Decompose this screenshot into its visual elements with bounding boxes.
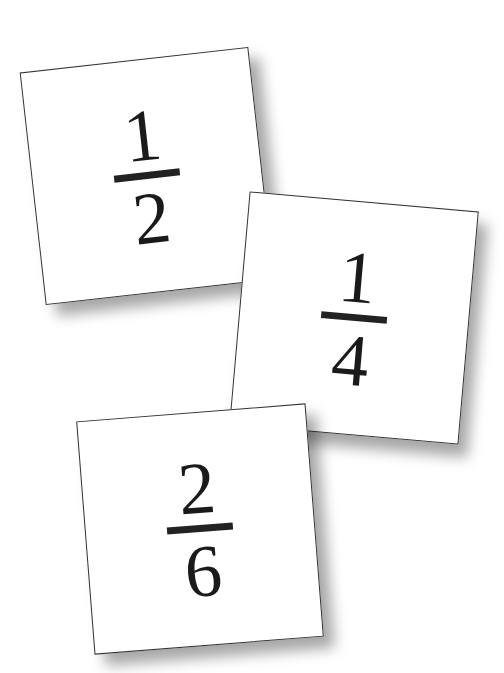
numerator: 1 <box>120 100 164 170</box>
denominator: 4 <box>329 325 372 394</box>
denominator: 2 <box>130 182 174 252</box>
fraction: 2 6 <box>161 452 238 606</box>
numerator: 1 <box>336 242 379 311</box>
fraction: 1 2 <box>106 98 188 253</box>
fraction-card-two-sixths: 2 6 <box>76 403 324 654</box>
fraction-card-one-half: 1 2 <box>20 47 275 305</box>
fraction: 1 4 <box>315 241 394 395</box>
numerator: 2 <box>176 453 218 522</box>
denominator: 6 <box>182 536 224 605</box>
